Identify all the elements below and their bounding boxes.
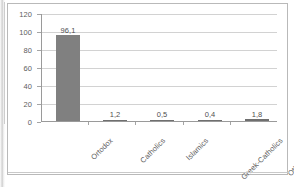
bar-islamics[interactable]: [150, 120, 174, 121]
frame-bottom-rule: [8, 172, 289, 173]
y-axis-label-80: 80: [23, 46, 32, 55]
y-axis-label-20: 20: [23, 100, 32, 109]
y-tick-0: 0: [37, 122, 41, 123]
x-tick-boundary-3: [183, 122, 184, 125]
x-tick-boundary-2: [135, 122, 136, 125]
gridline-120: [41, 14, 277, 15]
x-tick-boundary-4: [230, 122, 231, 125]
y-tick-100: 100: [37, 32, 41, 33]
y-axis-label-120: 120: [19, 10, 32, 19]
bar-catholics[interactable]: [103, 120, 127, 122]
chart-screenshot: 120 100 80 60 40 20 0: [0, 0, 294, 187]
bar-greek-catholics[interactable]: [198, 120, 222, 121]
x-axis-label-islamics: Islamics: [184, 136, 210, 162]
y-axis-label-100: 100: [19, 28, 32, 37]
bar-value-ortodox: 96,1: [61, 26, 76, 35]
x-axis-label-catholics: Catholics: [138, 136, 167, 165]
y-axis-label-40: 40: [23, 82, 32, 91]
bar-ortodox[interactable]: [56, 35, 80, 122]
plot-area: 120 100 80 60 40 20 0: [41, 14, 277, 122]
y-axis-label-60: 60: [23, 64, 32, 73]
y-tick-20: 20: [37, 104, 41, 105]
y-tick-60: 60: [37, 68, 41, 69]
bar-value-islamics: 0,5: [157, 110, 168, 119]
gridline-100: [41, 32, 277, 33]
x-axis-line: [41, 121, 277, 122]
y-tick-120: 120: [37, 14, 41, 15]
x-axis-label-ortodox: Ortodox: [89, 136, 115, 162]
x-axis-label-greek-catholics: Greek-Catholics: [239, 136, 284, 181]
y-tick-40: 40: [37, 86, 41, 87]
chart-frame: 120 100 80 60 40 20 0: [7, 3, 288, 175]
x-tick-boundary-1: [88, 122, 89, 125]
bar-value-other-religions: 1,8: [252, 110, 263, 119]
bar-other-religions[interactable]: [245, 119, 269, 121]
y-axis-label-0: 0: [28, 118, 32, 127]
y-axis-line: [41, 14, 42, 122]
bar-value-greek-catholics: 0,4: [205, 110, 216, 119]
scan-edge-line-artifact: [4, 2, 5, 124]
y-tick-80: 80: [37, 50, 41, 51]
bar-value-catholics: 1,2: [110, 110, 121, 119]
